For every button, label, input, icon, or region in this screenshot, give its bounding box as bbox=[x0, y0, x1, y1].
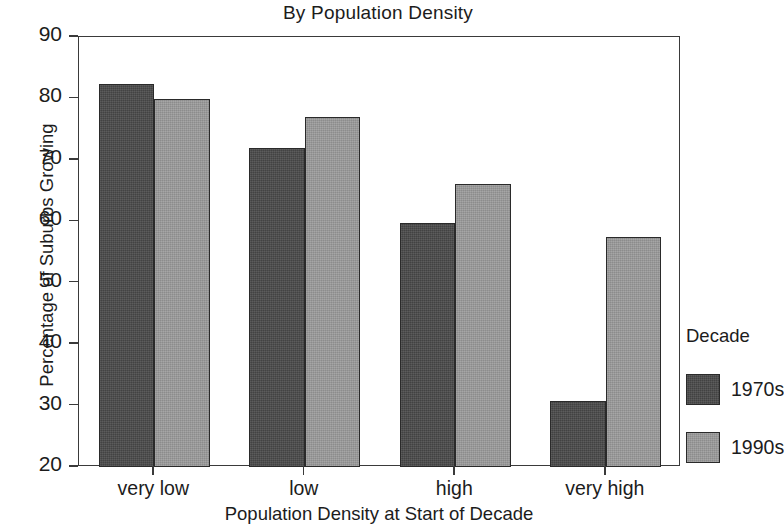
y-tick-label: 60 bbox=[14, 206, 62, 230]
x-tick-mark bbox=[152, 466, 154, 475]
legend-item-1990s[interactable]: 1990s bbox=[686, 427, 780, 467]
y-tick-label: 90 bbox=[14, 22, 62, 46]
legend-item-1970s[interactable]: 1970s bbox=[686, 369, 780, 409]
y-axis-title: Percentage of Suburbs Growing bbox=[36, 90, 58, 420]
y-tick-mark bbox=[69, 158, 78, 160]
y-tick-label: 80 bbox=[14, 83, 62, 107]
y-tick-label: 20 bbox=[14, 452, 62, 476]
y-tick-mark bbox=[69, 35, 78, 37]
y-tick-label: 50 bbox=[14, 268, 62, 292]
chart-title-text: By Population Density bbox=[283, 2, 473, 23]
x-tick-mark bbox=[303, 466, 305, 475]
y-tick-label: 40 bbox=[14, 329, 62, 353]
plot-area bbox=[78, 36, 680, 466]
x-tick-label-high: high bbox=[374, 477, 534, 500]
y-tick-mark bbox=[69, 220, 78, 222]
bar-very-high-1990s bbox=[606, 237, 662, 467]
x-tick-mark bbox=[453, 466, 455, 475]
x-tick-label-low: low bbox=[224, 477, 384, 500]
y-tick-label: 30 bbox=[14, 391, 62, 415]
y-tick-mark bbox=[69, 342, 78, 344]
bar-very-low-1990s bbox=[154, 99, 210, 467]
y-tick-mark bbox=[69, 465, 78, 467]
y-tick-mark bbox=[69, 97, 78, 99]
bar-low-1970s bbox=[249, 148, 305, 467]
bar-low-1990s bbox=[305, 117, 361, 467]
x-tick-label-very-high: very high bbox=[525, 477, 685, 500]
legend-title: Decade bbox=[686, 325, 780, 347]
bar-very-high-1970s bbox=[550, 401, 606, 467]
y-tick-mark bbox=[69, 404, 78, 406]
y-tick-label: 70 bbox=[14, 145, 62, 169]
x-tick-label-very-low: very low bbox=[73, 477, 233, 500]
bar-high-1990s bbox=[455, 184, 511, 467]
legend-label-1990s: 1990s bbox=[731, 436, 784, 459]
bar-very-low-1970s bbox=[99, 84, 155, 467]
legend-swatch-1970s bbox=[686, 374, 720, 405]
x-tick-mark bbox=[604, 466, 606, 475]
y-tick-mark bbox=[69, 281, 78, 283]
chart-legend: Decade 1970s1990s bbox=[686, 325, 780, 485]
chart-title: By Population Density bbox=[0, 2, 780, 24]
legend-rows: 1970s1990s bbox=[686, 369, 780, 467]
bar-high-1970s bbox=[400, 223, 456, 468]
legend-label-1970s: 1970s bbox=[731, 378, 784, 401]
x-axis-title: Population Density at Start of Decade bbox=[78, 503, 680, 525]
bars-layer bbox=[79, 37, 679, 465]
legend-swatch-1990s bbox=[686, 432, 720, 463]
